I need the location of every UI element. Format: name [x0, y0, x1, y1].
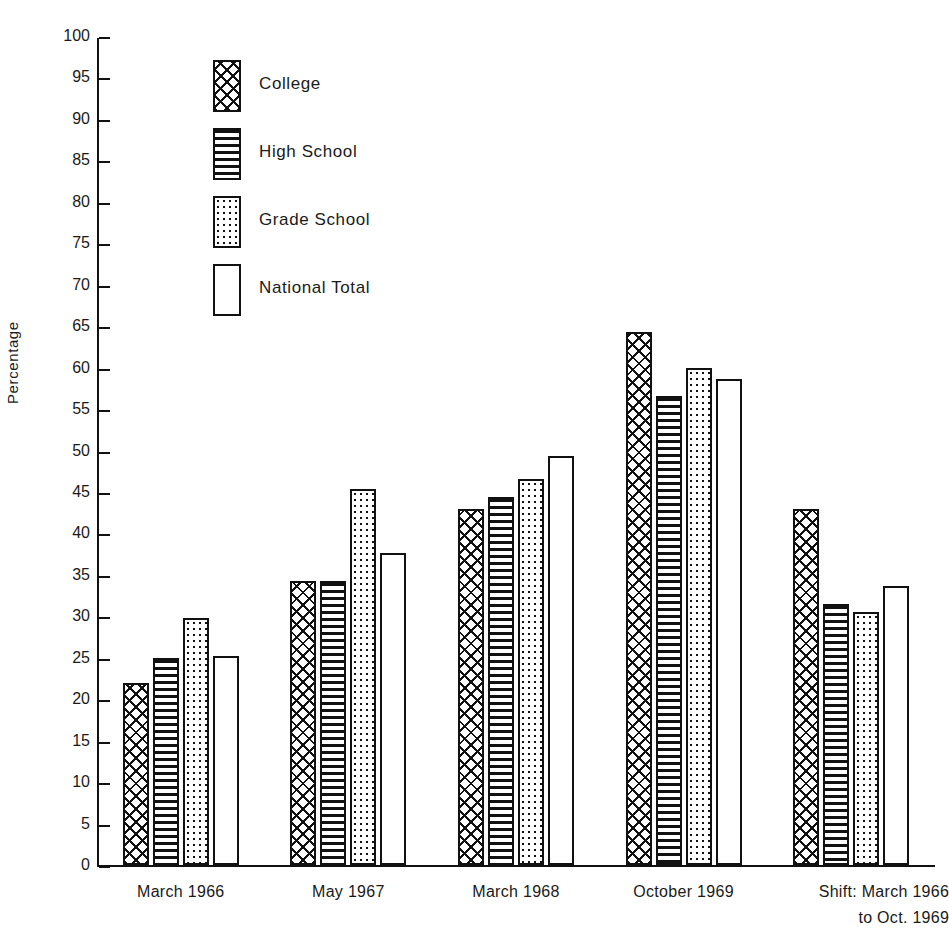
bar-grade-school — [853, 612, 879, 865]
y-tick-label: 70 — [50, 275, 90, 295]
x-axis-label: March 1966 — [83, 879, 279, 905]
legend-item: College — [213, 60, 513, 128]
legend-label: Grade School — [259, 210, 370, 230]
bar-group — [626, 36, 742, 865]
y-tick-label: 50 — [50, 441, 90, 461]
y-tick-label: 0 — [50, 855, 90, 875]
bar-national-total — [213, 656, 239, 865]
bar-national-total — [716, 379, 742, 865]
y-tick-mark — [99, 783, 110, 785]
y-tick-label: 35 — [50, 565, 90, 585]
bar-national-total — [380, 553, 406, 865]
dots-swatch — [213, 196, 241, 248]
y-tick-mark — [99, 700, 110, 702]
y-tick-mark — [99, 161, 110, 163]
x-axis-label-line: to Oct. 1969 — [753, 905, 949, 931]
bar-national-total — [883, 586, 909, 865]
bar-high-school — [488, 497, 514, 865]
legend-item: Grade School — [213, 196, 513, 264]
y-tick-label: 55 — [50, 399, 90, 419]
y-tick-mark — [99, 866, 110, 868]
bar-grade-school — [686, 368, 712, 865]
bar-college — [626, 332, 652, 865]
bar-grade-school — [350, 489, 376, 865]
y-tick-mark — [99, 78, 110, 80]
y-tick-mark — [99, 659, 110, 661]
y-tick-mark — [99, 37, 110, 39]
y-tick-label: 85 — [50, 150, 90, 170]
y-tick-label: 40 — [50, 523, 90, 543]
y-tick-mark — [99, 452, 110, 454]
x-axis-label: May 1967 — [250, 879, 446, 905]
y-tick-mark — [99, 203, 110, 205]
y-tick-mark — [99, 534, 110, 536]
y-tick-label: 30 — [50, 606, 90, 626]
bar-high-school — [656, 396, 682, 865]
legend-label: National Total — [259, 278, 370, 298]
y-tick-label: 5 — [50, 814, 90, 834]
bar-national-total — [548, 456, 574, 865]
y-tick-mark — [99, 120, 110, 122]
empty-swatch — [213, 264, 241, 316]
y-tick-mark — [99, 825, 110, 827]
y-tick-mark — [99, 617, 110, 619]
y-tick-mark — [99, 576, 110, 578]
y-tick-label: 25 — [50, 648, 90, 668]
legend-item: High School — [213, 128, 513, 196]
cross-hatch-swatch — [213, 60, 241, 112]
x-axis-line — [97, 865, 935, 867]
bar-college — [793, 509, 819, 865]
x-axis-label: October 1969 — [586, 879, 782, 905]
y-tick-mark — [99, 493, 110, 495]
legend-label: College — [259, 74, 321, 94]
y-tick-mark — [99, 327, 110, 329]
chart-legend: CollegeHigh SchoolGrade SchoolNational T… — [213, 60, 513, 332]
y-tick-label: 15 — [50, 731, 90, 751]
y-tick-label: 95 — [50, 67, 90, 87]
bar-grade-school — [518, 479, 544, 865]
y-tick-label: 20 — [50, 689, 90, 709]
y-tick-label: 100 — [50, 26, 90, 46]
y-tick-label: 45 — [50, 482, 90, 502]
bar-grade-school — [183, 618, 209, 865]
y-tick-mark — [99, 244, 110, 246]
y-tick-label: 65 — [50, 316, 90, 336]
y-tick-label: 60 — [50, 358, 90, 378]
bar-college — [123, 683, 149, 865]
legend-item: National Total — [213, 264, 513, 332]
bar-college — [458, 509, 484, 865]
bar-group — [793, 36, 909, 865]
x-axis-label-line: May 1967 — [250, 879, 446, 905]
x-axis-label-line: Shift: March 1966 — [753, 879, 949, 905]
y-tick-label: 10 — [50, 772, 90, 792]
x-axis-label-line: March 1968 — [418, 879, 614, 905]
y-tick-mark — [99, 369, 110, 371]
x-axis-label: Shift: March 1966to Oct. 1969 — [753, 879, 949, 931]
y-tick-label: 90 — [50, 109, 90, 129]
x-axis-label-line: October 1969 — [586, 879, 782, 905]
bar-college — [290, 581, 316, 865]
y-tick-mark — [99, 410, 110, 412]
bar-high-school — [320, 581, 346, 865]
x-axis-label-line: March 1966 — [83, 879, 279, 905]
y-axis-title: Percentage — [4, 244, 28, 404]
y-tick-label: 80 — [50, 192, 90, 212]
horizontal-lines-swatch — [213, 128, 241, 180]
y-tick-label: 75 — [50, 233, 90, 253]
y-tick-mark — [99, 286, 110, 288]
bar-high-school — [153, 658, 179, 865]
y-tick-mark — [99, 742, 110, 744]
legend-label: High School — [259, 142, 357, 162]
bar-high-school — [823, 604, 849, 865]
x-axis-label: March 1968 — [418, 879, 614, 905]
